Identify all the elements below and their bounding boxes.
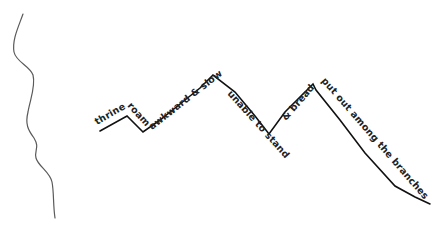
label-put-out-among-the-branches: put out among the branches [319,75,431,201]
label-thrine: thrine [93,100,128,126]
label-and-bread: & bread [279,82,316,123]
label-awkward-and-slow: awkward & slow [146,67,224,131]
label-unable-to-stand: unable to stand [226,88,293,160]
poem-drawing: thrine roam awkward & slow unable to sta… [0,0,448,226]
wavy-line [14,14,55,218]
